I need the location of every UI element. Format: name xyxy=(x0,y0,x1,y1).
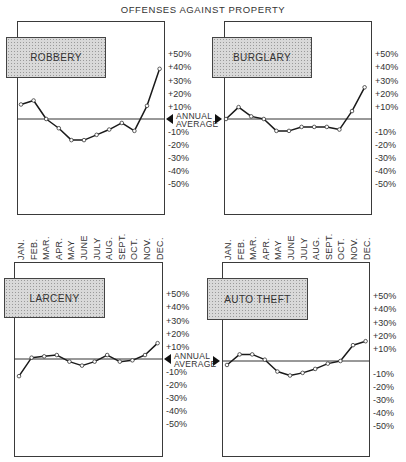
data-point-marker xyxy=(68,360,72,364)
y-tick-label: +40% xyxy=(166,302,189,312)
data-point-marker xyxy=(249,115,253,119)
data-point-marker xyxy=(313,367,317,371)
month-label: APR. xyxy=(261,238,271,260)
chart-title-box: ROBBERY xyxy=(6,37,106,78)
data-point-marker xyxy=(17,374,21,378)
data-point-marker xyxy=(120,121,124,125)
data-point-marker xyxy=(288,374,292,378)
month-label: JULY xyxy=(299,237,309,260)
baseline-arrow-right-icon xyxy=(213,356,220,366)
data-point-marker xyxy=(82,138,86,142)
data-point-marker xyxy=(143,353,147,357)
baseline-arrow-right-icon xyxy=(215,114,222,124)
data-point-marker xyxy=(156,341,160,345)
data-point-marker xyxy=(351,343,355,347)
y-tick-label: -20% xyxy=(373,382,394,392)
data-point-marker xyxy=(158,67,162,71)
month-axis-labels-right: JAN.FEB.MAR.APR.MAYJUNEJULYAUG.SEPT.OCT.… xyxy=(0,216,406,260)
chart-title: LARCENY xyxy=(29,293,79,304)
data-point-marker xyxy=(287,129,291,133)
data-point-marker xyxy=(363,86,367,90)
y-tick-label: -10% xyxy=(166,367,187,377)
month-label: FEB. xyxy=(236,239,246,260)
month-label: JUNE xyxy=(286,235,296,260)
data-point-marker xyxy=(275,129,279,133)
month-label: JAN. xyxy=(223,239,233,260)
data-point-marker xyxy=(55,353,59,357)
data-point-marker xyxy=(30,356,34,360)
data-point-marker xyxy=(339,359,343,363)
data-point-marker xyxy=(42,355,46,359)
y-tick-label: -40% xyxy=(373,408,394,418)
y-tick-label: -30% xyxy=(168,153,189,163)
data-line xyxy=(21,69,160,140)
data-point-marker xyxy=(145,104,149,108)
month-label: MAR. xyxy=(248,236,258,260)
y-tick-label: +50% xyxy=(373,291,396,301)
data-line xyxy=(19,343,158,376)
data-point-marker xyxy=(263,358,267,362)
y-tick-label: +50% xyxy=(166,289,189,299)
y-tick-label: -20% xyxy=(168,140,189,150)
data-point-marker xyxy=(364,339,368,343)
y-tick-label: -20% xyxy=(166,380,187,390)
month-label: AUG. xyxy=(311,237,321,260)
y-tick-label: +20% xyxy=(166,329,189,339)
chart-title-box: BURGLARY xyxy=(212,37,312,78)
annual-average-label: ANNUAL AVERAGE xyxy=(176,112,219,128)
y-tick-label: -40% xyxy=(375,166,396,176)
y-tick-label: -50% xyxy=(166,419,187,429)
data-point-marker xyxy=(131,359,135,363)
month-label: MAY xyxy=(273,240,283,260)
data-point-marker xyxy=(312,125,316,129)
data-point-marker xyxy=(250,353,254,357)
y-tick-label: -20% xyxy=(375,140,396,150)
data-point-marker xyxy=(338,128,342,132)
data-point-marker xyxy=(80,364,84,368)
data-point-marker xyxy=(262,117,266,121)
y-tick-label: +10% xyxy=(168,102,191,112)
data-line xyxy=(226,87,365,131)
data-point-marker xyxy=(325,125,329,129)
baseline-arrow-left-icon xyxy=(164,354,171,364)
data-point-marker xyxy=(70,138,74,142)
data-point-marker xyxy=(225,363,229,367)
data-point-marker xyxy=(326,362,330,366)
y-tick-label: +10% xyxy=(166,342,189,352)
data-point-marker xyxy=(224,117,228,121)
y-tick-label: -10% xyxy=(168,127,189,137)
y-tick-label: +30% xyxy=(375,76,398,86)
figure-title: OFFENSES AGAINST PROPERTY xyxy=(0,4,406,15)
y-tick-label: -30% xyxy=(375,153,396,163)
month-label: DEC. xyxy=(362,237,372,260)
data-point-marker xyxy=(238,353,242,357)
y-tick-label: -10% xyxy=(373,369,394,379)
data-point-marker xyxy=(276,370,280,374)
chart-title: BURGLARY xyxy=(233,52,291,63)
chart-title: AUTO THEFT xyxy=(224,294,290,305)
data-line xyxy=(227,341,366,375)
chart-title-box: AUTO THEFT xyxy=(207,278,308,320)
y-tick-label: +50% xyxy=(168,49,191,59)
data-point-marker xyxy=(105,353,109,357)
data-point-marker xyxy=(44,117,48,121)
baseline-arrow-left-icon xyxy=(166,114,173,124)
y-tick-label: -50% xyxy=(373,421,394,431)
y-tick-label: +30% xyxy=(373,318,396,328)
y-tick-label: -50% xyxy=(375,179,396,189)
chart-title: ROBBERY xyxy=(30,52,82,63)
y-tick-label: +10% xyxy=(375,102,398,112)
data-point-marker xyxy=(107,128,111,132)
data-point-marker xyxy=(57,126,61,130)
month-label: SEPT. xyxy=(324,233,334,260)
data-point-marker xyxy=(95,133,99,137)
data-point-marker xyxy=(350,109,354,113)
y-tick-label: +30% xyxy=(168,76,191,86)
y-tick-label: -30% xyxy=(166,393,187,403)
y-tick-label: +40% xyxy=(373,304,396,314)
data-point-marker xyxy=(19,103,23,107)
month-label: NOV. xyxy=(349,238,359,260)
y-tick-label: -40% xyxy=(166,406,187,416)
y-tick-label: +40% xyxy=(168,62,191,72)
month-label: OCT. xyxy=(336,238,346,260)
